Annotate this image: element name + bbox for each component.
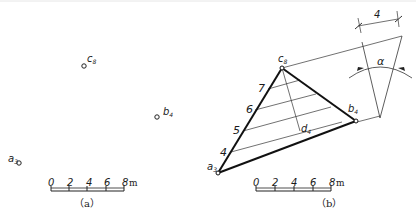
contour-interpolation-diagram: c8 b4 a3 0 2 4 6 8 m （a）: [0, 0, 416, 216]
panel-a: c8 b4 a3 0 2 4 6 8 m （a）: [8, 53, 173, 209]
scale-b-tick-6: 6: [310, 177, 316, 188]
point-b4-marker: [155, 115, 159, 119]
division-label-5: 5: [233, 124, 240, 137]
slope-angle-construction: 4 α: [349, 9, 412, 118]
label-c8: c8: [87, 53, 97, 65]
point-b4-marker-b: [354, 119, 358, 123]
scale-a-tick-0: 0: [48, 177, 54, 188]
point-c8-marker-b: [280, 66, 284, 70]
caption-a: （a）: [74, 198, 100, 209]
scale-bar-a: 0 2 4 6 8 m: [48, 177, 138, 191]
scale-b-unit: m: [336, 178, 345, 188]
scale-a-tick-6: 6: [104, 177, 110, 188]
label-c8-b: c8: [278, 53, 288, 65]
division-label-7: 7: [258, 82, 265, 95]
panel-b: c8 b4 a3 d4 7 6 5 4 4 α: [207, 9, 412, 209]
scale-b-tick-8: 8: [329, 177, 335, 188]
scale-b-tick-2: 2: [272, 177, 278, 188]
scale-a-unit: m: [129, 178, 138, 188]
scale-a-tick-4: 4: [86, 177, 92, 188]
scale-bar-b: 0 2 4 6 8 m: [253, 177, 345, 191]
dimension-label: 4: [374, 9, 380, 20]
label-d4: d4: [301, 123, 311, 135]
label-b4-b: b4: [348, 103, 358, 115]
division-label-6: 6: [246, 103, 253, 116]
division-label-4: 4: [220, 146, 227, 159]
scale-b-tick-4: 4: [291, 177, 297, 188]
caption-b: （b）: [316, 198, 342, 209]
scale-a-tick-2: 2: [67, 177, 73, 188]
label-a3-b: a3: [207, 161, 217, 173]
scale-b-tick-0: 0: [253, 177, 259, 188]
label-b4: b4: [163, 106, 173, 118]
scale-a-tick-8: 8: [122, 177, 128, 188]
angle-alpha-label: α: [377, 55, 385, 68]
label-a3: a3: [8, 153, 18, 165]
point-c8-marker: [82, 64, 86, 68]
